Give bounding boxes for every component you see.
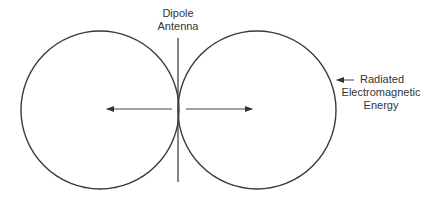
antenna-label-line1: Dipole — [148, 7, 208, 20]
energy-label-line3: Energy — [336, 99, 426, 112]
energy-label-line2: Electromagnetic — [336, 86, 426, 99]
antenna-label: Dipole Antenna — [148, 7, 208, 33]
right-radiation-lobe — [178, 31, 336, 189]
energy-label-line1: Radiated — [336, 73, 426, 86]
antenna-label-line2: Antenna — [148, 20, 208, 33]
energy-label: Radiated Electromagnetic Energy — [336, 73, 426, 112]
left-radiation-lobe — [21, 31, 179, 189]
